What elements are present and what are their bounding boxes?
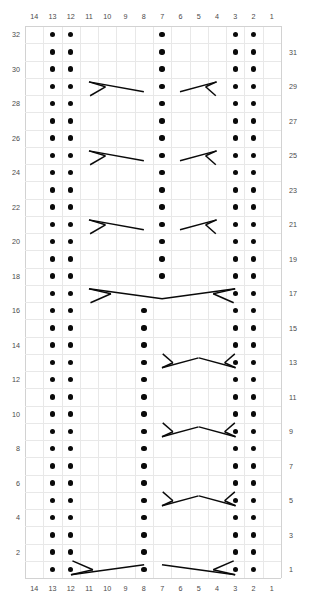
purl-stitch-dot [141, 532, 146, 537]
row-label-left: 22 [4, 203, 20, 212]
left-twist-cable-down-icon [158, 556, 239, 584]
left-twist-cable-icon [176, 73, 221, 101]
purl-stitch-dot [141, 498, 146, 503]
row-label-left: 18 [4, 272, 20, 281]
purl-stitch-dot [233, 394, 238, 399]
purl-stitch-dot [68, 187, 73, 192]
purl-stitch-dot [251, 118, 256, 123]
purl-stitch-dot [68, 256, 73, 261]
grid-line-horizontal [25, 250, 281, 251]
row-label-right: 17 [289, 289, 307, 298]
purl-stitch-dot [233, 49, 238, 54]
purl-stitch-dot [50, 49, 55, 54]
purl-stitch-dot [251, 49, 256, 54]
purl-stitch-dot [251, 66, 256, 71]
row-label-right: 25 [289, 151, 307, 160]
purl-stitch-dot [141, 394, 146, 399]
grid-line-horizontal [25, 216, 281, 217]
purl-stitch-dot [251, 411, 256, 416]
column-header-top: 6 [171, 12, 189, 21]
column-header-top: 1 [263, 12, 281, 21]
grid-line-horizontal [25, 475, 281, 476]
column-header-bottom: 6 [171, 584, 189, 593]
purl-stitch-dot [68, 49, 73, 54]
purl-stitch-dot [233, 463, 238, 468]
row-label-right: 29 [289, 82, 307, 91]
grid-line-horizontal [25, 112, 281, 113]
purl-stitch-dot [141, 480, 146, 485]
grid-line-horizontal [25, 578, 281, 579]
column-header-top: 14 [25, 12, 43, 21]
row-label-right: 15 [289, 324, 307, 333]
purl-stitch-dot [233, 135, 238, 140]
purl-stitch-dot [233, 532, 238, 537]
purl-stitch-dot [233, 118, 238, 123]
purl-stitch-dot [50, 463, 55, 468]
grid-line-horizontal [25, 337, 281, 338]
row-label-right: 5 [289, 496, 307, 505]
purl-stitch-dot [68, 325, 73, 330]
column-header-top: 3 [226, 12, 244, 21]
grid-line-horizontal [25, 526, 281, 527]
purl-stitch-dot [251, 342, 256, 347]
purl-stitch-dot [50, 342, 55, 347]
column-header-bottom: 4 [208, 584, 226, 593]
row-label-left: 26 [4, 134, 20, 143]
purl-stitch-dot [159, 204, 164, 209]
purl-stitch-dot [141, 360, 146, 365]
purl-stitch-dot [141, 515, 146, 520]
column-header-top: 10 [98, 12, 116, 21]
purl-stitch-dot [50, 549, 55, 554]
row-label-left: 32 [4, 30, 20, 39]
row-label-left: 12 [4, 375, 20, 384]
purl-stitch-dot [50, 394, 55, 399]
purl-stitch-dot [233, 187, 238, 192]
column-header-top: 7 [153, 12, 171, 21]
purl-stitch-dot [233, 153, 238, 158]
row-label-left: 6 [4, 479, 20, 488]
purl-stitch-dot [233, 256, 238, 261]
row-label-left: 24 [4, 168, 20, 177]
left-twist-cable-down-icon [195, 349, 240, 377]
column-header-top: 5 [190, 12, 208, 21]
grid-line-horizontal [25, 388, 281, 389]
purl-stitch-dot [251, 135, 256, 140]
purl-stitch-dot [233, 325, 238, 330]
grid-line-horizontal [25, 561, 281, 562]
purl-stitch-dot [50, 325, 55, 330]
purl-stitch-dot [50, 135, 55, 140]
right-twist-cable-icon [85, 211, 148, 239]
purl-stitch-dot [159, 256, 164, 261]
purl-stitch-dot [233, 549, 238, 554]
row-label-left: 30 [4, 65, 20, 74]
row-label-left: 2 [4, 548, 20, 557]
column-header-bottom: 7 [153, 584, 171, 593]
purl-stitch-dot [251, 532, 256, 537]
row-label-right: 19 [289, 255, 307, 264]
grid-line-horizontal [25, 492, 281, 493]
left-twist-cable-icon [176, 142, 221, 170]
grid-line-horizontal [25, 181, 281, 182]
grid-line-horizontal [25, 95, 281, 96]
purl-stitch-dot [159, 135, 164, 140]
row-label-left: 10 [4, 410, 20, 419]
left-twist-cable-down-icon [195, 487, 240, 515]
purl-stitch-dot [251, 394, 256, 399]
grid-line-horizontal [25, 26, 281, 27]
grid-line-horizontal [25, 509, 281, 510]
purl-stitch-dot [68, 394, 73, 399]
grid-line-horizontal [25, 319, 281, 320]
column-header-bottom: 1 [263, 584, 281, 593]
purl-stitch-dot [141, 411, 146, 416]
column-header-bottom: 5 [190, 584, 208, 593]
purl-stitch-dot [68, 532, 73, 537]
purl-stitch-dot [251, 273, 256, 278]
grid-line-horizontal [25, 164, 281, 165]
grid-line-horizontal [25, 199, 281, 200]
right-twist-cable-icon [85, 280, 166, 308]
row-label-right: 13 [289, 358, 307, 367]
grid-line-horizontal [25, 440, 281, 441]
row-label-left: 28 [4, 99, 20, 108]
purl-stitch-dot [141, 308, 146, 313]
purl-stitch-dot [251, 204, 256, 209]
